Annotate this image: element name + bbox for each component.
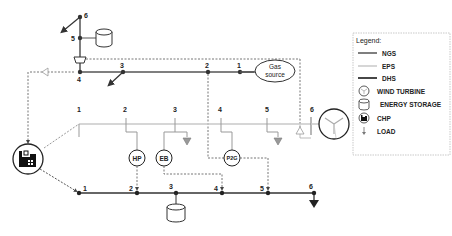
integrated-energy-system-diagram: 6 5 4 3 2 1 Gas source [0,0,452,236]
legend-wind-turbine-label: WIND TURBINE [377,88,426,95]
dhs-node-3-label: 3 [169,183,173,190]
ngs-network: 6 5 4 3 2 1 Gas source [63,12,300,84]
hp-label: HP [132,155,142,162]
wind-turbine-icon [359,86,369,96]
chp-power-link [44,124,79,148]
dhs-node-2-label: 2 [129,185,133,192]
ngs-node-3-label: 3 [120,62,124,69]
heat-storage-icon [167,204,185,222]
legend-dhs-label: DHS [382,75,396,82]
dhs-node-2 [135,191,139,195]
dhs-node-1-label: 1 [83,185,87,192]
dhs-node-4-label: 4 [214,185,218,192]
eps-node-1-label: 1 [77,106,81,113]
eps-network: 1 2 3 4 5 6 [44,106,314,150]
ngs-node-1-label: 1 [237,62,241,69]
ngs-node-2-label: 2 [205,62,209,69]
dhs-node-5 [266,191,270,195]
gas-source-label-1: Gas [269,63,282,70]
eps-node-5-label: 5 [265,106,269,113]
eps-node-3-label: 3 [173,106,177,113]
gas-flow-arrow-icon [42,68,48,76]
compressor-icon [74,57,86,63]
energy-storage-icon [359,99,369,110]
chp-icon [359,113,369,123]
ngs-node-5 [78,36,82,40]
p2g-unit: P2G [224,150,240,166]
eb-label: EB [159,155,168,162]
eb-unit: EB [156,150,172,166]
legend-chp-label: CHP [377,115,391,122]
ngs-node-6-label: 6 [84,12,88,19]
load-icon [110,72,123,84]
load-icon [309,200,319,208]
compressor-load-icon [296,127,304,134]
legend: Legend: NGS EPS DHS WIND TURBINE ENERGY … [353,33,450,155]
chp-icon [13,144,43,174]
eps-node-4-label: 4 [218,106,222,113]
gas-source-label-2: source [265,71,285,78]
gas-storage-icon [96,29,112,47]
wind-turbine-icon [311,109,349,139]
gas-source: Gas source [240,60,295,82]
dhs-network: 1 2 3 4 5 6 [77,183,319,222]
ngs-node-2 [206,70,210,74]
ngs-node-4 [78,70,82,74]
ngs-node-5-label: 5 [71,35,75,42]
chp-heat-link [40,169,76,191]
eps-node-2-label: 2 [123,106,127,113]
legend-load-label: LOAD [377,128,396,135]
hp-unit: HP [129,150,145,166]
legend-energy-storage-label: ENERGY STORAGE [380,101,442,108]
eps-node-6-label: 6 [310,106,314,113]
ngs-node-4-label: 4 [77,76,81,83]
legend-eps-label: EPS [382,63,396,70]
dhs-node-5-label: 5 [260,185,264,192]
dhs-node-6-label: 6 [309,183,313,190]
load-icon [63,17,80,31]
p2g-label: P2G [226,155,237,161]
dhs-node-1 [77,191,81,195]
legend-ngs-label: NGS [382,50,397,57]
load-icon [183,138,191,145]
dhs-node-4 [220,191,224,195]
load-icon [274,138,282,145]
legend-title: Legend: [356,37,381,45]
